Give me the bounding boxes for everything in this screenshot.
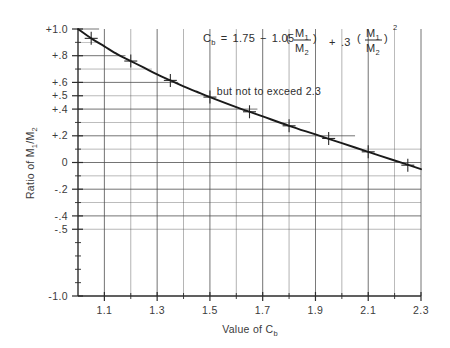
x-axis-title-text: Value of C <box>222 323 273 335</box>
y-tick-label: -.4 <box>55 210 68 222</box>
x-tick-label: 1.5 <box>202 304 218 316</box>
formula-minus: − <box>260 32 267 44</box>
formula-coef-b: 1.05 <box>272 32 295 44</box>
x-tick-label: 2.1 <box>360 304 376 316</box>
y-tick-label: -1.0 <box>48 290 68 302</box>
frac2-num-text: M <box>366 27 375 39</box>
x-tick-label: 1.1 <box>96 304 112 316</box>
y-tick-label: +.6 <box>52 76 68 88</box>
y-tick-label: -.2 <box>55 183 68 195</box>
chart-page: +1.0+.8+.6+.5+.4+.20-.2-.4-.5-1.0 1.11.3… <box>0 0 450 348</box>
formula-equals: = <box>221 32 228 44</box>
x-axis-title-sub: b <box>273 329 277 338</box>
formula-plus: + <box>329 36 336 48</box>
paren-close-2: ) <box>384 32 388 44</box>
frac2-den-sub: 2 <box>375 48 379 57</box>
cb-moment-ratio-chart: +1.0+.8+.6+.5+.4+.20-.2-.4-.5-1.0 1.11.3… <box>0 0 450 348</box>
frac1-den-sub: 2 <box>304 48 308 57</box>
formula-lhs-sub: b <box>211 38 215 47</box>
y-axis-title-mid: /M <box>24 131 36 143</box>
y-tick-label: +1.0 <box>46 23 68 35</box>
formula-coef-c: .3 <box>341 36 351 48</box>
y-tick-label: 0 <box>62 156 68 168</box>
paren-open-1: ( <box>286 32 290 44</box>
y-tick-label: +.8 <box>52 49 68 61</box>
y-tick-label: -.5 <box>55 223 68 235</box>
frac1-den-text: M <box>295 42 304 54</box>
y-tick-label: +.4 <box>52 103 68 115</box>
formula-exponent: 2 <box>393 23 397 32</box>
formula-const-a: 1.75 <box>232 32 255 44</box>
frac1-num-text: M <box>295 27 304 39</box>
paren-open-2: ( <box>357 32 361 44</box>
y-tick-label: +.5 <box>52 89 68 101</box>
y-axis-title-sub2: 2 <box>30 127 39 131</box>
formula-lhs: C <box>203 32 211 44</box>
y-axis-title-text: Ratio of M <box>24 148 36 199</box>
paren-close-1: ) <box>313 32 317 44</box>
x-tick-label: 1.7 <box>255 304 271 316</box>
y-tick-label: +.2 <box>52 129 68 141</box>
x-tick-label: 2.3 <box>413 304 429 316</box>
x-tick-label: 1.9 <box>308 304 324 316</box>
x-tick-label: 1.3 <box>149 304 165 316</box>
frac2-den-text: M <box>366 42 375 54</box>
note-not-to-exceed: but not to exceed 2.3 <box>217 85 321 97</box>
